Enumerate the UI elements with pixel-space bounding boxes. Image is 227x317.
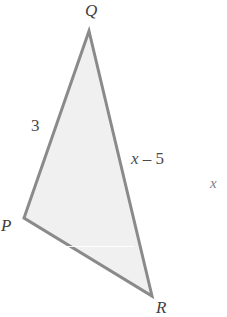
vertex-label-r: R — [156, 299, 166, 316]
side-length-label-qr: x – 5 — [131, 150, 164, 167]
vertex-label-p: P — [1, 217, 11, 234]
side-length-label-pq: 3 — [31, 117, 40, 134]
stray-variable-x: x — [210, 176, 217, 191]
side-qr-variable: x — [131, 149, 139, 168]
side-qr-expression-rest: – 5 — [139, 149, 165, 168]
vertex-label-q: Q — [85, 2, 97, 19]
scan-artifact-line — [46, 246, 134, 247]
